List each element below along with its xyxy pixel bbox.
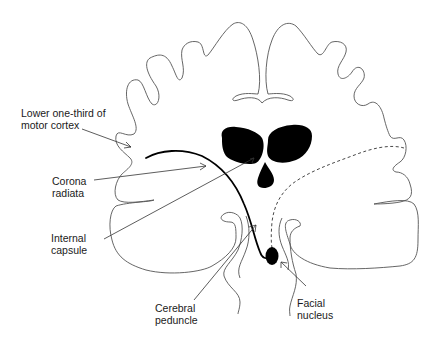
label-internal-capsule: Internal capsule — [51, 232, 87, 256]
pointer-motor-cortex — [82, 129, 131, 148]
label-cerebral-peduncle: Cerebral peduncle — [155, 302, 198, 326]
left-lateral-ventricle-icon — [222, 127, 264, 164]
pointer-cerebral-peduncle — [194, 225, 256, 300]
label-facial-nucleus: Facial nucleus — [297, 297, 333, 321]
left-brainstem-inner-outline-icon — [239, 216, 249, 278]
right-lateral-ventricle-icon — [267, 125, 312, 163]
right-hemisphere-outline-icon — [262, 23, 418, 316]
label-motor-cortex: Lower one-third of motor cortex — [21, 107, 106, 131]
pointer-corona-radiata — [94, 163, 206, 180]
facial-nucleus-icon — [266, 247, 279, 265]
coronal-brain-diagram — [0, 0, 437, 339]
third-ventricle-icon — [257, 162, 274, 188]
corticobulbar-tract-solid — [146, 151, 270, 258]
label-corona-radiata: Corona radiata — [52, 175, 86, 199]
